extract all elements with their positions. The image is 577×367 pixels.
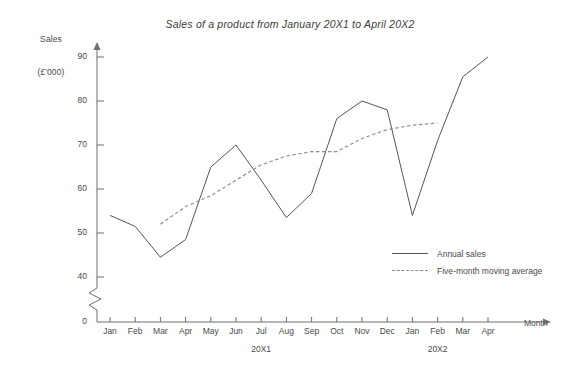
y-tick-label: 70 xyxy=(65,139,87,149)
y-tick-label: 60 xyxy=(65,183,87,193)
legend-swatch-dashed xyxy=(392,270,428,271)
chart-container: Sales (£'000) Sales of a product from Ja… xyxy=(0,0,577,367)
legend-item-annual-sales: Annual sales xyxy=(392,245,542,262)
axis-ticks xyxy=(97,57,488,322)
x-axis-group-label: 20X1 xyxy=(239,344,283,354)
y-tick-label: 90 xyxy=(65,51,87,61)
legend-label-moving-average: Five-month moving average xyxy=(437,266,542,276)
x-axis-group-label: 20X2 xyxy=(416,344,460,354)
y-tick-label: 50 xyxy=(65,227,87,237)
series-line-five-month-moving-average xyxy=(160,123,437,224)
series-line-annual-sales xyxy=(110,57,488,257)
y-tick-label: 80 xyxy=(65,95,87,105)
legend-item-moving-average: Five-month moving average xyxy=(392,262,542,279)
legend-label-annual-sales: Annual sales xyxy=(437,249,486,259)
data-series xyxy=(110,57,488,257)
y-tick-label: 40 xyxy=(65,271,87,281)
y-origin-label: 0 xyxy=(65,316,87,326)
chart-legend: Annual sales Five-month moving average xyxy=(392,245,542,279)
axis-break-symbol xyxy=(89,288,101,310)
legend-swatch-solid xyxy=(392,253,428,254)
axes xyxy=(89,42,551,325)
x-tick-label: Apr xyxy=(473,326,503,336)
